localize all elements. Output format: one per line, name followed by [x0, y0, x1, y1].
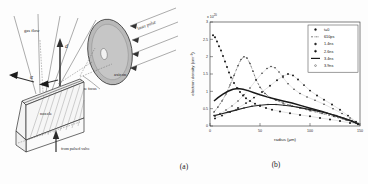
data-point	[252, 70, 254, 72]
data-point	[265, 107, 267, 109]
label-laser-pulse: laser pulse	[137, 19, 157, 31]
data-point	[351, 120, 353, 122]
data-point	[243, 107, 245, 109]
data-point	[228, 72, 230, 74]
data-point	[319, 117, 321, 119]
label-axicon: axicon	[114, 72, 127, 77]
y-tick-label: 3	[206, 20, 208, 24]
data-point	[291, 105, 293, 107]
data-point	[231, 105, 233, 107]
data-point	[287, 83, 289, 85]
data-point	[303, 84, 305, 86]
data-point	[266, 68, 268, 70]
data-point	[293, 89, 295, 91]
legend-label-2[interactable]: 1.4ns	[324, 42, 333, 46]
legend-label-3[interactable]: 2.6ns	[324, 50, 333, 54]
data-point	[259, 86, 261, 88]
data-point	[246, 57, 248, 59]
data-point	[264, 93, 266, 95]
data-point	[240, 59, 242, 61]
data-point	[233, 82, 235, 84]
data-point	[278, 71, 280, 73]
label-d: d	[65, 43, 68, 49]
data-point	[287, 73, 289, 75]
legend-label-5[interactable]: 3.9ns	[324, 64, 333, 68]
data-point	[243, 56, 245, 58]
data-point	[245, 102, 247, 104]
data-point	[243, 94, 245, 96]
data-point	[224, 61, 226, 63]
data-point	[297, 79, 299, 81]
data-point	[218, 45, 220, 47]
data-point	[225, 109, 227, 111]
data-point	[299, 114, 301, 116]
data-point	[308, 109, 310, 111]
data-point	[214, 117, 216, 119]
legend-label-0[interactable]: t=0	[324, 28, 329, 32]
legend-label-1[interactable]: 610ps	[324, 35, 334, 39]
data-point	[314, 100, 316, 102]
data-point	[255, 79, 257, 81]
y-tick-label: 1	[206, 90, 208, 94]
x-tick-label: 50	[258, 129, 262, 133]
legend-marker-0	[315, 29, 317, 31]
data-point	[251, 105, 253, 107]
caption-b: (b)	[184, 160, 368, 169]
data-point	[339, 109, 341, 111]
legend-label-4[interactable]: 3.4ns	[324, 57, 333, 61]
panel-a-schematic: gas flow d α	[0, 0, 184, 184]
data-point	[220, 49, 222, 51]
data-point	[358, 124, 360, 126]
data-point	[245, 97, 247, 99]
data-point	[299, 93, 301, 95]
data-point	[269, 85, 271, 87]
data-point	[279, 110, 281, 112]
data-point	[237, 65, 239, 67]
data-point	[213, 115, 215, 117]
legend-marker-5	[315, 65, 317, 67]
data-point	[249, 87, 251, 89]
data-point	[229, 84, 231, 86]
data-point	[221, 115, 223, 117]
data-point	[326, 112, 328, 114]
data-point	[339, 120, 341, 122]
data-point	[270, 66, 272, 68]
x-tick-label: 100	[307, 129, 313, 133]
data-point	[235, 109, 237, 111]
data-point	[329, 118, 331, 120]
data-point	[316, 95, 318, 97]
schematic-drawing: gas flow d α	[0, 0, 184, 160]
figure-container: gas flow d α	[0, 0, 368, 184]
distance-arrow-d	[57, 38, 64, 86]
data-point	[221, 100, 223, 102]
data-point	[225, 93, 227, 95]
data-point	[321, 113, 323, 115]
data-point	[292, 74, 294, 76]
data-point	[212, 34, 214, 36]
data-point	[309, 90, 311, 92]
data-point	[341, 113, 343, 115]
data-point	[349, 122, 351, 124]
data-point	[271, 109, 273, 111]
y-tick-label: 0	[206, 124, 208, 128]
data-point	[323, 103, 325, 105]
data-point	[317, 110, 319, 112]
x-tick-label: 0	[209, 129, 211, 133]
data-point	[299, 107, 301, 109]
data-point	[282, 102, 284, 104]
label-gas-flow: gas flow	[24, 28, 40, 33]
data-point	[226, 66, 228, 68]
data-point	[227, 111, 229, 113]
data-point	[217, 106, 219, 108]
legend-marker-3	[315, 50, 317, 52]
legend-marker-2	[315, 43, 317, 45]
label-from-pulsed-valve: from pulsed valve	[61, 146, 90, 151]
panel-b-chart: x 102005010015000.511.522.53radius (μm)e…	[184, 0, 368, 184]
data-point	[289, 112, 291, 114]
x-axis-label: radius (μm)	[274, 137, 296, 142]
y-tick-label: 2.5	[203, 38, 208, 42]
data-point	[261, 73, 263, 75]
y-tick-label: 1.5	[203, 72, 208, 76]
data-point	[249, 63, 251, 65]
data-point	[275, 104, 277, 106]
